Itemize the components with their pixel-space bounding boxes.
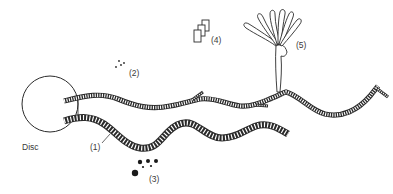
disc <box>22 76 78 132</box>
item2-dots <box>115 60 125 68</box>
item1-label: (1) <box>90 142 101 152</box>
item5-fan-structure <box>244 10 301 92</box>
item4-label: (4) <box>211 35 222 45</box>
item5-label: (5) <box>296 40 307 50</box>
item1-leader-line <box>102 134 110 143</box>
item3-label: (3) <box>149 174 160 184</box>
item2-label: (2) <box>129 68 140 78</box>
upper-fiber <box>64 86 388 115</box>
fiber-diagram: Disc (1) (2) (3) (4 <box>0 0 393 194</box>
item4-rectangles <box>194 20 209 42</box>
disc-label: Disc <box>22 142 39 152</box>
